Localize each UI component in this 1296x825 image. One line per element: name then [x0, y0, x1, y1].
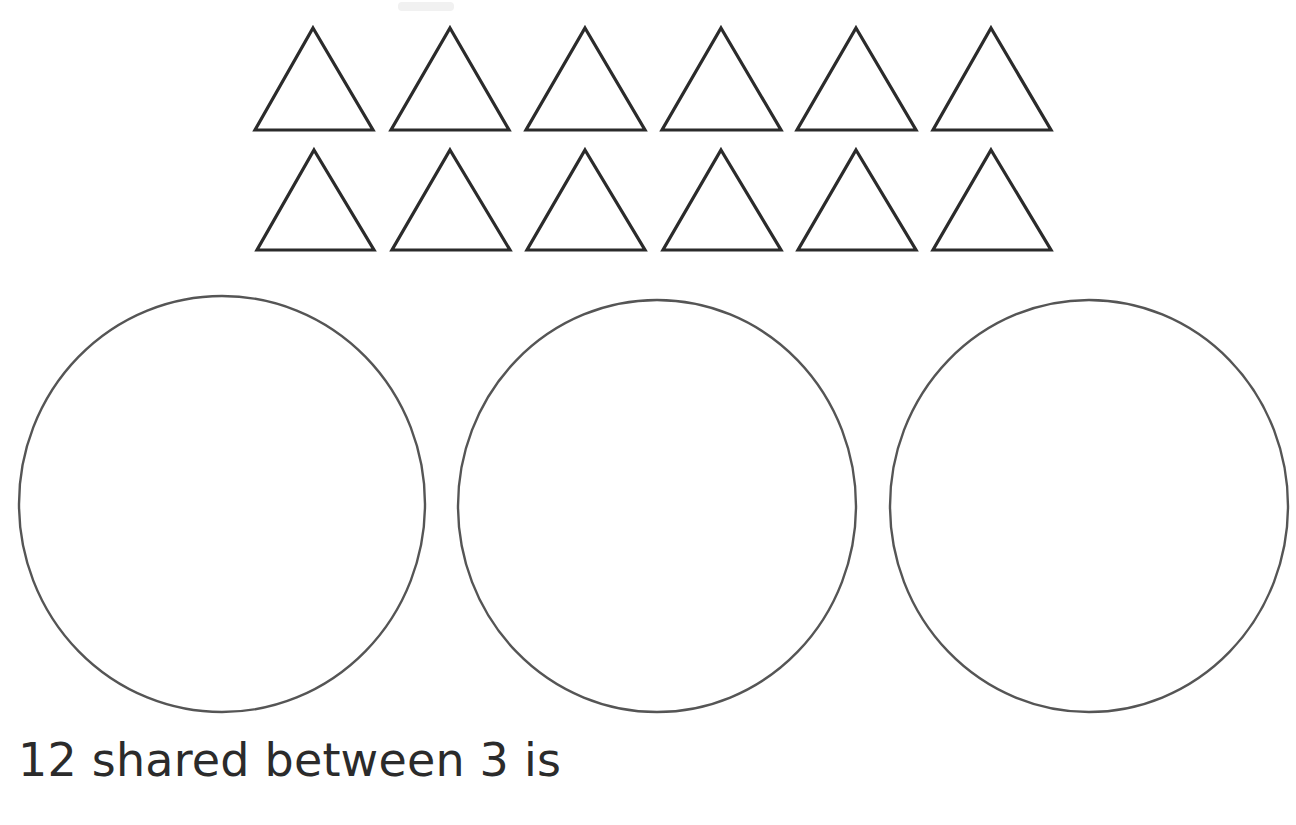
- sharing-circle[interactable]: [890, 300, 1288, 712]
- triangle-counter: [392, 150, 510, 250]
- triangle-counter: [797, 28, 916, 130]
- triangle-counter: [257, 150, 374, 250]
- worksheet-page: 12 shared between 3 is .: [0, 0, 1296, 825]
- triangle-counter: [933, 28, 1051, 130]
- triangle-row-2: [257, 150, 1051, 250]
- sharing-circle-group: [19, 296, 1288, 712]
- triangle-counter: [391, 28, 509, 130]
- sentence-label: 12 shared between 3 is: [18, 722, 561, 798]
- triangle-counter: [662, 28, 781, 130]
- shapes-canvas: [0, 0, 1296, 825]
- sharing-circle[interactable]: [458, 300, 856, 712]
- triangle-counter: [663, 150, 781, 250]
- sentence-row: 12 shared between 3 is .: [0, 722, 1296, 825]
- triangle-counter: [933, 150, 1051, 250]
- triangle-counter: [526, 28, 645, 130]
- triangle-counter: [527, 150, 645, 250]
- triangle-counter: [255, 28, 373, 130]
- triangle-row-1: [255, 28, 1051, 130]
- triangle-counter: [798, 150, 916, 250]
- sharing-circle[interactable]: [19, 296, 425, 712]
